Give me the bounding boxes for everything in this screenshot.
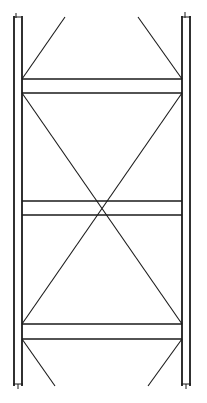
top-right-knee-brace bbox=[138, 17, 182, 79]
bottom-left-knee-brace bbox=[22, 339, 55, 386]
diagram-canvas bbox=[0, 0, 207, 403]
braced-frame-diagram bbox=[0, 0, 207, 403]
bottom-right-knee-brace bbox=[148, 339, 182, 386]
top-left-knee-brace bbox=[22, 17, 65, 79]
